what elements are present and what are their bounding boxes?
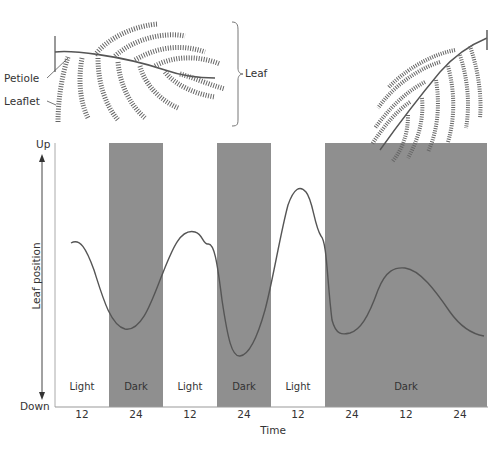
x-tick-label: 12 [399, 408, 412, 420]
x-tick-label: 24 [237, 408, 250, 420]
x-tick-label: 12 [291, 408, 304, 420]
up-arrow-icon [39, 154, 45, 162]
down-arrow-icon [39, 392, 45, 400]
y-axis-down-label: Down [20, 400, 50, 412]
period-label: Dark [232, 381, 256, 392]
dark-band-1 [109, 143, 163, 407]
dark-band-3 [325, 143, 487, 407]
period-label: Dark [124, 381, 148, 392]
x-tick-label: 24 [345, 408, 358, 420]
x-tick-label: 24 [453, 408, 466, 420]
y-axis-title: Leaf position [30, 236, 42, 316]
dark-band-2 [217, 143, 271, 407]
leaf-illustration-open [55, 24, 225, 122]
leaf-illustration-folded [372, 30, 487, 162]
x-axis-title: Time [260, 424, 286, 436]
leaflet-label: Leaflet [4, 95, 40, 107]
x-tick-label: 12 [183, 408, 196, 420]
leaf-label: Leaf [245, 67, 267, 79]
x-tick-label: 24 [129, 408, 142, 420]
period-label: Light [70, 381, 95, 392]
period-label: Dark [394, 381, 418, 392]
leaf-brace [232, 22, 243, 126]
y-axis-up-label: Up [36, 138, 50, 150]
period-label: Light [178, 381, 203, 392]
petiole-label: Petiole [4, 72, 39, 84]
leaflet-leader [47, 101, 56, 105]
period-label: Light [286, 381, 311, 392]
x-tick-label: 12 [75, 408, 88, 420]
